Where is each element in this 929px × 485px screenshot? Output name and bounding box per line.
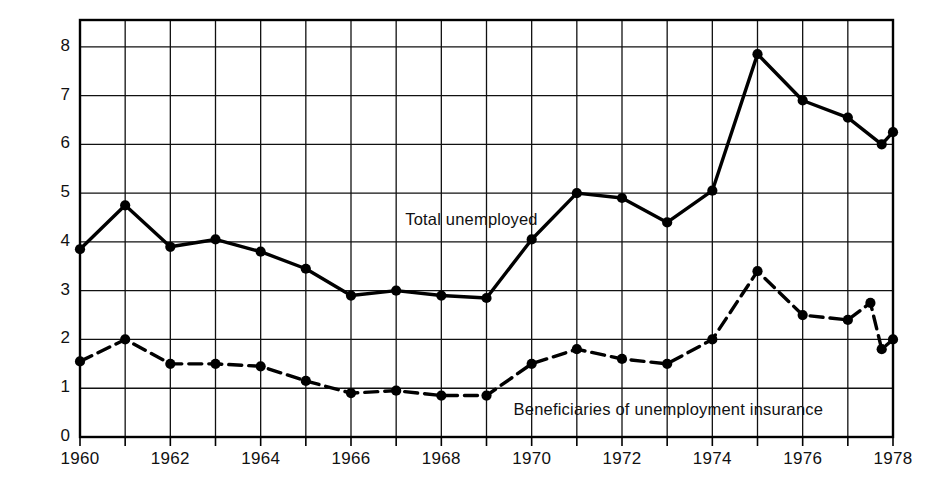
y-tick-label: 6	[44, 133, 70, 153]
y-tick-label: 1	[44, 377, 70, 397]
y-tick-label: 3	[44, 280, 70, 300]
y-tick-label: 2	[44, 328, 70, 348]
x-tick-label: 1974	[682, 449, 742, 469]
y-tick-label: 4	[44, 231, 70, 251]
x-tick-label: 1960	[50, 449, 110, 469]
x-tick-label: 1964	[231, 449, 291, 469]
x-tick-label: 1962	[140, 449, 200, 469]
y-tick-label: 5	[44, 182, 70, 202]
y-tick-label: 8	[44, 36, 70, 56]
x-tick-label: 1970	[502, 449, 562, 469]
y-tick-label: 0	[44, 426, 70, 446]
series-annotation-1: Total unemployed	[405, 210, 538, 229]
y-tick-label: 7	[44, 85, 70, 105]
series-annotation-2: Beneficiaries of unemployment insurance	[514, 400, 824, 419]
x-tick-label: 1972	[592, 449, 652, 469]
x-tick-label: 1978	[863, 449, 923, 469]
x-axis-minor-ticks	[80, 437, 893, 446]
x-tick-label: 1968	[411, 449, 471, 469]
x-tick-label: 1976	[773, 449, 833, 469]
x-tick-label: 1966	[321, 449, 381, 469]
unemployment-line-chart: Millions of unemployed 012345678 1960196…	[0, 0, 929, 485]
